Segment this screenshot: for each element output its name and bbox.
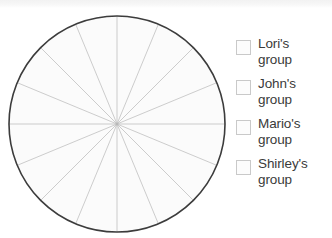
legend-swatch-icon (236, 40, 251, 55)
legend-swatch-icon (236, 160, 251, 175)
legend-item-label: Mario's group (258, 116, 300, 147)
legend: Lori's group John's group Mario's group … (236, 36, 332, 196)
legend-item-label: Lori's group (258, 36, 292, 67)
chart-title (60, 0, 280, 3)
legend-item-label: John's group (258, 76, 296, 107)
legend-item-shirleys-group[interactable]: Shirley's group (236, 156, 332, 187)
chart-canvas: Lori's group John's group Mario's group … (0, 0, 332, 238)
legend-swatch-icon (236, 80, 251, 95)
legend-item-johns-group[interactable]: John's group (236, 76, 332, 107)
pie-divider-group (9, 16, 225, 232)
pie-chart-svg (7, 7, 229, 238)
legend-item-label: Shirley's group (258, 156, 308, 187)
legend-swatch-icon (236, 120, 251, 135)
pie-chart (7, 7, 229, 238)
legend-item-marios-group[interactable]: Mario's group (236, 116, 332, 147)
legend-item-loris-group[interactable]: Lori's group (236, 36, 332, 67)
